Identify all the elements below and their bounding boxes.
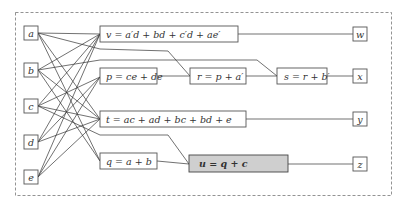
gate-t: t = ac + ad + bc + bd + e (100, 111, 246, 127)
gate-label: u = q + c (199, 158, 248, 169)
input-e: e (24, 170, 38, 184)
output-x: x (353, 69, 367, 83)
output-label: x (357, 71, 363, 82)
gate-label: t = ac + ad + bc + bd + e (106, 114, 232, 125)
gate-label: r = p + a′ (197, 71, 244, 82)
gate-v: v = a′d + bd + c′d + ae′ (100, 26, 238, 42)
output-w: w (353, 27, 367, 41)
output-label: z (356, 159, 363, 170)
input-label: c (28, 101, 34, 112)
output-y: y (353, 112, 367, 126)
gate-label: v = a′d + bd + c′d + ae′ (106, 29, 221, 40)
input-c: c (24, 99, 38, 113)
output-label: w (356, 29, 364, 40)
gate-r: r = p + a′ (190, 68, 246, 84)
gate-label: p = ce + de (106, 71, 163, 82)
input-label: b (28, 65, 34, 76)
input-d: d (24, 135, 38, 149)
input-label: d (28, 137, 34, 148)
output-z: z (353, 157, 367, 171)
gate-p: p = ce + de (100, 68, 163, 84)
input-label: e (28, 172, 34, 183)
gate-s: s = r + b′ (277, 68, 330, 84)
logic-network-diagram: a b c d e v = a′d + bd + c′d + ae′ p = c… (0, 0, 394, 208)
gate-label: q = a + b (106, 156, 152, 167)
output-label: y (356, 114, 363, 125)
input-a: a (24, 26, 38, 40)
input-b: b (24, 63, 38, 77)
gate-label: s = r + b′ (284, 71, 330, 82)
gate-u-highlighted: u = q + c (189, 155, 288, 172)
gate-q: q = a + b (100, 153, 157, 169)
input-label: a (28, 28, 34, 39)
